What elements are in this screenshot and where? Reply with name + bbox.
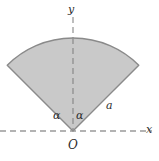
radius-label: a [106,100,113,111]
diagram-canvas [0,0,159,161]
alpha-left-label: α [53,110,60,121]
origin-label: O [68,139,78,151]
y-axis-label: y [68,4,74,15]
sector-diagram: y x O α α a [0,0,159,161]
x-axis-label: x [146,124,152,135]
alpha-right-label: α [76,110,83,121]
